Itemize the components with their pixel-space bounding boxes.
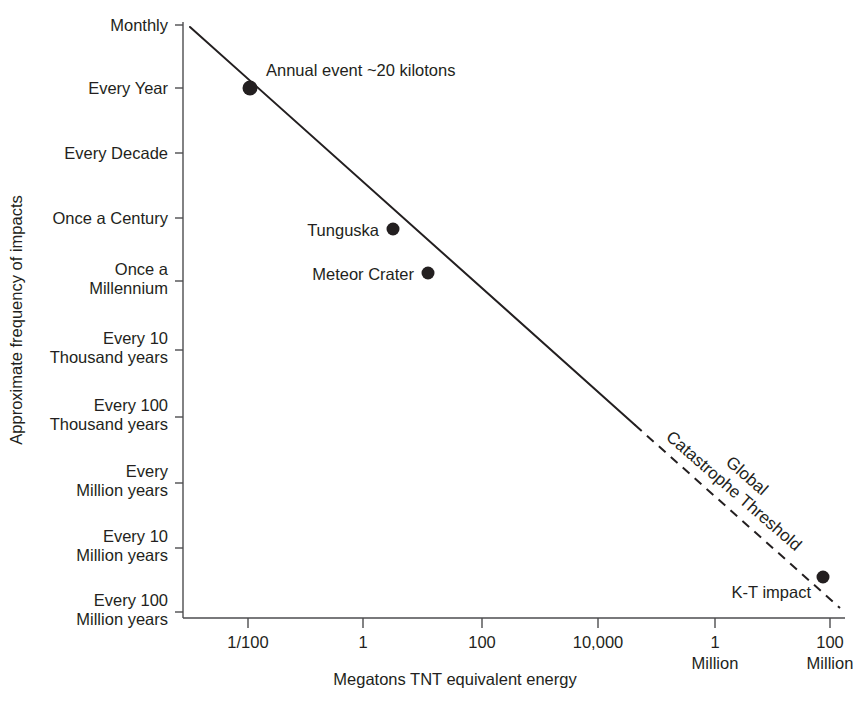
x-axis-ticks — [248, 618, 830, 628]
label-annual-event: Annual event ~20 kilotons — [266, 61, 455, 79]
y-tick-label: Every Year — [88, 79, 168, 97]
x-tick-label: 1 — [710, 633, 719, 651]
x-axis-tick-labels: 1/100 1 100 10,000 1 Million 100 Million — [227, 633, 853, 672]
x-tick-label: 1 — [358, 633, 367, 651]
y-tick-label: Every — [126, 462, 169, 480]
label-kt-impact: K-T impact — [732, 583, 812, 601]
y-tick-label: Every 10 — [103, 527, 168, 545]
y-tick-label: Every 100 — [94, 591, 168, 609]
y-axis-tick-labels: Monthly Every Year Every Decade Once a C… — [50, 16, 169, 628]
global-catastrophe-threshold-annotation: Global Catastrophe Threshold — [662, 412, 818, 555]
label-tunguska: Tunguska — [307, 221, 380, 239]
y-tick-label: Thousand years — [50, 348, 168, 366]
data-point-annual-event — [243, 81, 258, 96]
y-tick-label: Once a — [115, 260, 169, 278]
x-tick-label: 10,000 — [573, 633, 623, 651]
y-tick-label: Million years — [76, 610, 168, 628]
y-tick-label: Once a Century — [52, 209, 168, 227]
label-meteor-crater: Meteor Crater — [312, 265, 414, 283]
data-point-meteor-crater — [422, 267, 435, 280]
y-tick-label: Thousand years — [50, 415, 168, 433]
y-tick-label: Millennium — [89, 279, 168, 297]
x-axis-title: Megatons TNT equivalent energy — [333, 670, 577, 688]
y-tick-label: Every 100 — [94, 396, 168, 414]
y-tick-label: Every Decade — [64, 144, 168, 162]
y-tick-label: Million years — [76, 481, 168, 499]
y-tick-label: Every 10 — [103, 329, 168, 347]
y-tick-label: Million years — [76, 546, 168, 564]
y-tick-label: Monthly — [110, 16, 169, 34]
x-tick-label-sub: Million — [692, 654, 739, 672]
x-tick-label: 100 — [468, 633, 496, 651]
x-tick-label: 1/100 — [227, 633, 268, 651]
data-point-tunguska — [387, 223, 400, 236]
y-axis-ticks — [175, 25, 183, 612]
chart-canvas: Monthly Every Year Every Decade Once a C… — [0, 0, 855, 703]
x-tick-label: 100 — [816, 633, 844, 651]
impact-frequency-chart: Monthly Every Year Every Decade Once a C… — [0, 0, 855, 703]
y-axis-title: Approximate frequency of impacts — [7, 195, 25, 444]
threshold-label-line2: Catastrophe Threshold — [662, 427, 805, 555]
x-tick-label-sub: Million — [807, 654, 854, 672]
data-point-kt-impact — [817, 571, 830, 584]
trend-line-dashed — [635, 425, 840, 608]
